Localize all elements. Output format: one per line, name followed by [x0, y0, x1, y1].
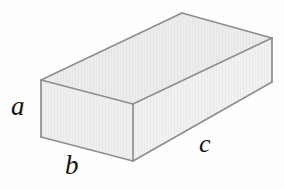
- dimension-label-b: b: [65, 152, 79, 179]
- dimension-label-c: c: [199, 131, 211, 157]
- figure-canvas: a b c: [0, 0, 284, 189]
- rectangular-prism-svg: [0, 0, 284, 189]
- dimension-label-a: a: [11, 93, 25, 120]
